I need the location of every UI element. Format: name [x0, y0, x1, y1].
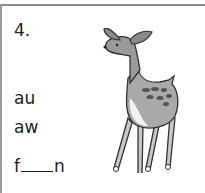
option-aw: aw: [14, 117, 38, 137]
top-border-line: [0, 4, 205, 6]
option-au: au: [14, 88, 35, 108]
fawn-icon: [100, 28, 190, 173]
word-suffix: n: [54, 156, 65, 176]
blank-line[interactable]: [21, 170, 53, 172]
word-prefix: f: [14, 156, 20, 176]
fill-in-word: fn: [14, 156, 65, 176]
left-border-line: [0, 4, 2, 193]
exercise-number: 4.: [14, 20, 30, 40]
